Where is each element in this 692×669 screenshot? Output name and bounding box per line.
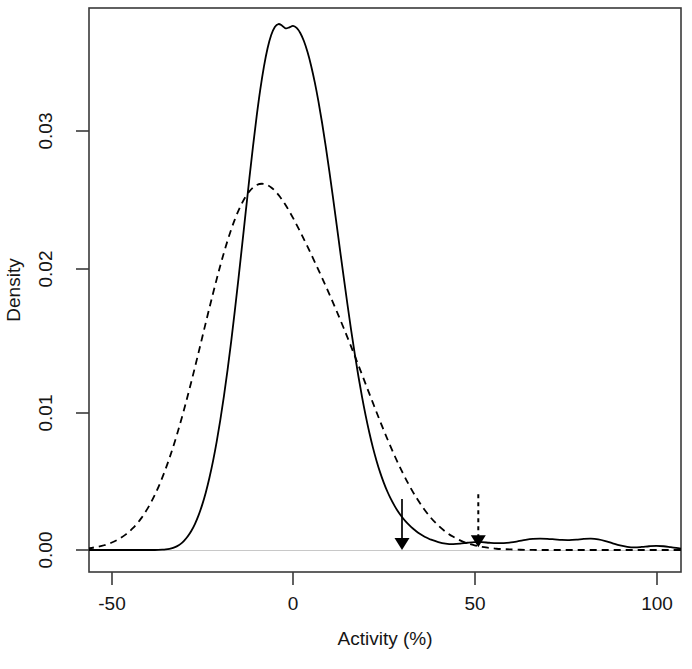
y-tick-label-0.01-text: 0.01	[35, 395, 57, 432]
plot-canvas	[0, 0, 692, 669]
solid-arrow-marker-head	[395, 538, 410, 550]
x-tick-label-50: 50	[464, 593, 485, 615]
x-axis-ticks	[112, 572, 657, 585]
x-tick-label--50: -50	[98, 593, 125, 615]
x-tick-label-100: 100	[641, 593, 673, 615]
reference-normal-curve	[75, 184, 692, 550]
y-axis-title: Density	[3, 258, 25, 321]
x-axis-title: Activity (%)	[338, 628, 433, 650]
x-tick-label-0: 0	[288, 593, 299, 615]
observed-density-curve	[75, 24, 692, 550]
y-axis-ticks	[76, 131, 89, 550]
density-plot-figure: -50 0 50 100 0.00 0.01 0.02 0.03 Activit…	[0, 0, 692, 669]
y-tick-label-0.03-text: 0.03	[35, 113, 57, 150]
y-tick-label-0.02-text: 0.02	[35, 251, 57, 288]
y-tick-label-0.00-text: 0.00	[35, 532, 57, 569]
